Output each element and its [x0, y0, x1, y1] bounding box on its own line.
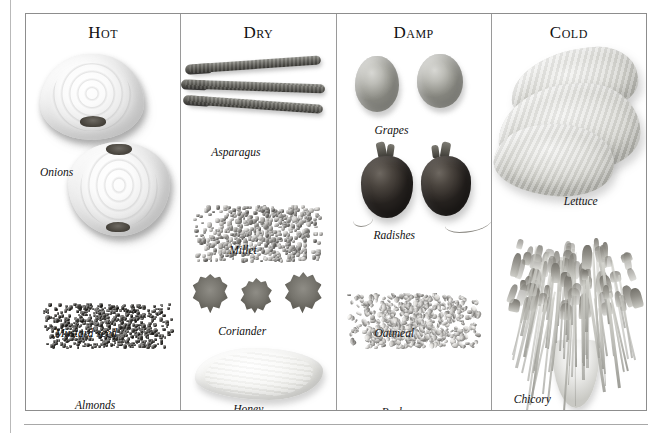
grapes-photo: [355, 56, 399, 112]
caption-coriander: Coriander: [218, 325, 266, 337]
column-damp: Damp Grapes Radishes Oatmeal Barley: [337, 14, 492, 410]
column-hot: Hot Onions Mustard seed Almonds: [26, 14, 181, 410]
caption-mustard-seed: Mustard seed: [55, 327, 117, 339]
column-header-hot: Hot: [26, 23, 180, 43]
left-margin-rule: [10, 0, 11, 433]
grape-2-photo: [417, 54, 463, 108]
caption-grapes: Grapes: [375, 124, 409, 136]
column-header-cold: Cold: [492, 23, 646, 43]
radishes-photo: [345, 142, 490, 238]
column-cold: Cold Lettuce Chicory: [492, 14, 646, 410]
millet-grain-pile-photo: [193, 205, 323, 263]
onion-halves-photo: [40, 54, 144, 140]
mustard-seed-pile-photo: [42, 303, 174, 349]
caption-radishes: Radishes: [374, 229, 416, 241]
caption-oatmeal: Oatmeal: [375, 327, 415, 339]
four-qualities-plate: Hot Onions Mustard seed Almonds Dry: [25, 13, 647, 411]
column-header-dry: Dry: [181, 23, 335, 43]
caption-barley: Barley: [382, 406, 413, 410]
caption-millet: Millet: [229, 244, 256, 256]
caption-lettuce: Lettuce: [564, 195, 598, 207]
lettuce-leaves-photo: [492, 50, 646, 210]
column-header-damp: Damp: [337, 23, 491, 43]
oatmeal-flakes-photo: [347, 293, 483, 349]
coriander-leaves-photo: [189, 272, 329, 320]
caption-honey: Honey: [233, 403, 263, 410]
onion-half-lower-photo: [68, 142, 170, 236]
caption-chicory: Chicory: [514, 393, 551, 405]
footer-rule: [24, 424, 648, 425]
chicory-photo: [502, 236, 646, 408]
caption-onions: Onions: [40, 166, 73, 178]
caption-almonds: Almonds: [75, 399, 115, 410]
asparagus-spears-photo: [181, 56, 336, 118]
caption-asparagus: Asparagus: [211, 146, 260, 158]
column-dry: Dry Asparagus Millet Coriander Honey: [181, 14, 336, 410]
honey-pool-photo: [195, 348, 323, 400]
